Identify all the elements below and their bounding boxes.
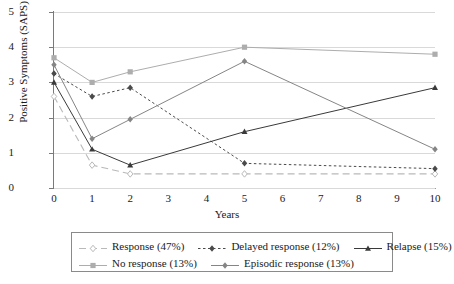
legend-swatch <box>78 240 108 251</box>
legend-label: No response (13%) <box>112 257 197 269</box>
x-tick-label: 8 <box>344 192 374 204</box>
data-point-marker <box>432 52 437 57</box>
series-line <box>54 82 435 165</box>
y-tick-label: 3 <box>0 76 14 87</box>
legend-item[interactable]: Relapse (15%) <box>353 240 452 252</box>
data-point-marker <box>432 85 438 90</box>
x-tick-label: 3 <box>153 192 183 204</box>
data-point-marker <box>89 162 94 169</box>
legend-label: Episodic response (13%) <box>244 257 354 269</box>
data-point-marker <box>242 171 247 178</box>
legend-swatch <box>78 257 108 268</box>
x-tick-label: 5 <box>230 192 260 204</box>
data-point-marker <box>51 55 56 60</box>
x-tick-label: 7 <box>306 192 336 204</box>
chart-container: Positive Symptoms (SAPS) 012345 01234567… <box>0 0 454 284</box>
series-5 <box>51 58 437 153</box>
data-point-marker <box>127 84 132 91</box>
series-line <box>54 74 435 169</box>
x-tick-label: 2 <box>115 192 145 204</box>
x-axis-title: Years <box>0 208 454 220</box>
legend-label: Delayed response (12%) <box>231 240 339 252</box>
series-4 <box>51 45 437 85</box>
legend-label: Response (47%) <box>112 240 184 252</box>
legend-swatch <box>210 257 240 268</box>
y-tick-label: 2 <box>0 112 14 123</box>
data-point-marker <box>89 93 94 100</box>
chart-legend: Response (47%)Delayed response (12%)Rela… <box>71 232 393 272</box>
data-point-marker <box>210 245 215 252</box>
x-tick-label: 4 <box>191 192 221 204</box>
legend-item[interactable]: Delayed response (12%) <box>197 240 339 252</box>
y-tick-label: 5 <box>0 6 14 17</box>
data-point-marker <box>90 263 95 268</box>
data-point-marker <box>432 165 437 172</box>
legend-item[interactable]: Episodic response (13%) <box>210 257 354 269</box>
data-point-marker <box>222 262 227 269</box>
data-point-marker <box>242 58 247 65</box>
legend-row: Response (47%)Delayed response (12%)Rela… <box>78 237 386 254</box>
series-line <box>54 61 435 149</box>
data-point-marker <box>242 45 247 50</box>
x-tick-label: 1 <box>77 192 107 204</box>
data-point-marker <box>242 160 247 167</box>
legend-swatch <box>353 240 383 251</box>
data-point-marker <box>89 135 94 142</box>
legend-item[interactable]: Response (47%) <box>78 240 184 252</box>
legend-label: Relapse (15%) <box>387 240 452 252</box>
series-line <box>54 47 435 82</box>
legend-row: No response (13%)Episodic response (13%) <box>78 254 386 271</box>
legend-item[interactable]: No response (13%) <box>78 257 197 269</box>
x-tick-label: 9 <box>382 192 412 204</box>
series-layer <box>54 12 435 188</box>
data-point-marker <box>127 116 132 123</box>
legend-swatch <box>197 240 227 251</box>
data-point-marker <box>89 146 95 151</box>
x-tick-label: 0 <box>39 192 69 204</box>
gridline <box>54 188 435 189</box>
y-axis-title: Positive Symptoms (SAPS) <box>17 0 29 147</box>
plot-area <box>54 12 435 188</box>
x-tick-label: 6 <box>268 192 298 204</box>
y-tick-label: 4 <box>0 41 14 52</box>
x-tick-label: 10 <box>420 192 450 204</box>
y-tick-label: 0 <box>0 182 14 193</box>
data-point-marker <box>127 171 132 178</box>
data-point-marker <box>128 69 133 74</box>
data-point-marker <box>90 245 95 252</box>
data-point-marker <box>432 146 437 153</box>
y-tick-label: 1 <box>0 147 14 158</box>
data-point-marker <box>90 80 95 85</box>
